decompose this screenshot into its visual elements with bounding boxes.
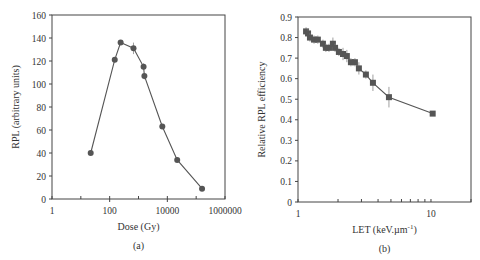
x-axis-title: Dose (Gy) — [118, 221, 160, 233]
data-point — [141, 64, 147, 70]
x-tick-label: 1 — [296, 209, 301, 219]
panel-caption: (b) — [379, 243, 391, 255]
y-tick-label: 0 — [287, 198, 292, 208]
y-tick-label: 0.7 — [280, 54, 292, 64]
chart-panel-b: 00.10.20.30.40.50.60.70.80.9110LET (keV.… — [256, 13, 471, 256]
y-tick-label: 0.6 — [280, 74, 292, 84]
plot-frame — [52, 15, 225, 199]
y-tick-label: 0.4 — [280, 115, 292, 125]
x-tick-label: 100 — [103, 206, 118, 216]
y-tick-label: 0.8 — [280, 33, 292, 43]
x-tick-label: 1 — [50, 206, 55, 216]
y-tick-label: 160 — [32, 11, 47, 21]
x-axis-title: LET (keV.µm-1) — [352, 223, 417, 236]
data-point — [118, 40, 124, 46]
y-tick-label: 0.9 — [280, 13, 292, 23]
y-axis-title: RPL (arbitrary units) — [10, 65, 22, 149]
data-point — [174, 157, 180, 163]
y-axis-title: Relative RPL efficiency — [256, 61, 267, 157]
y-tick-label: 0.5 — [280, 95, 292, 105]
data-point — [130, 45, 136, 51]
series-line — [91, 43, 202, 189]
y-tick-label: 0.3 — [280, 136, 292, 146]
data-point — [370, 80, 376, 86]
y-tick-label: 40 — [37, 149, 47, 159]
panel-caption: (a) — [133, 240, 144, 252]
data-point — [141, 73, 147, 79]
y-tick-label: 140 — [32, 34, 47, 44]
y-tick-label: 80 — [37, 103, 47, 113]
data-point — [159, 124, 165, 130]
x-tick-label: 1000000 — [208, 206, 242, 216]
figure: 0204060801001201401601100100001000000Dos… — [0, 0, 480, 260]
y-tick-label: 20 — [37, 172, 47, 182]
data-point — [344, 53, 350, 59]
data-point — [88, 150, 94, 156]
data-point — [112, 57, 118, 63]
data-point — [199, 186, 205, 192]
y-tick-label: 120 — [32, 57, 47, 67]
y-tick-label: 60 — [37, 126, 47, 136]
data-point — [430, 111, 436, 117]
y-tick-label: 0 — [41, 195, 46, 205]
y-tick-label: 100 — [32, 80, 47, 90]
data-point — [352, 59, 358, 65]
x-tick-label: 10 — [426, 209, 436, 219]
data-point — [363, 72, 369, 78]
data-point — [386, 94, 392, 100]
y-tick-label: 0.1 — [280, 177, 292, 187]
data-point — [356, 65, 362, 71]
chart-panel-a: 0204060801001201401601100100001000000Dos… — [10, 11, 242, 253]
x-tick-label: 10000 — [155, 206, 179, 216]
y-tick-label: 0.2 — [280, 156, 292, 166]
